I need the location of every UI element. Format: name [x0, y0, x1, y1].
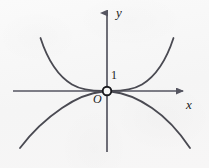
x-axis-label: x [186, 98, 192, 111]
y-tick-label-1: 1 [111, 69, 117, 81]
open-circle-icon [103, 87, 112, 96]
math-figure: y x O 1 [0, 0, 209, 168]
curve-upper-right [111, 38, 174, 91]
y-axis-label: y [116, 6, 122, 19]
curve-lower-left [20, 92, 104, 149]
plot-canvas [0, 0, 209, 168]
origin-label: O [93, 93, 102, 105]
curve-upper-left [41, 38, 104, 91]
curve-lower-right [111, 92, 191, 149]
